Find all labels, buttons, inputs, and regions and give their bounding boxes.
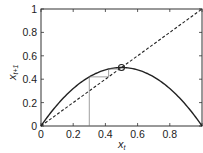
svg-text:0.8: 0.8	[162, 128, 177, 140]
svg-text:0.6: 0.6	[130, 128, 145, 140]
svg-text:0: 0	[38, 128, 44, 140]
svg-text:0.4: 0.4	[22, 73, 37, 85]
svg-text:0.8: 0.8	[22, 26, 37, 38]
logistic-curve	[41, 68, 202, 127]
svg-text:0.2: 0.2	[22, 97, 37, 109]
cobweb-path	[89, 69, 119, 126]
svg-text:1: 1	[31, 3, 37, 15]
y-tick-labels: 00.20.40.60.81	[22, 3, 37, 132]
svg-text:0: 0	[31, 120, 37, 132]
svg-text:0.4: 0.4	[98, 128, 113, 140]
svg-text:0.6: 0.6	[22, 50, 37, 62]
chart: 00.20.40.60.81 00.20.40.60.8 xt xt+1	[0, 0, 203, 153]
y-axis-label: xt+1	[6, 64, 19, 81]
x-tick-labels: 00.20.40.60.8	[38, 128, 177, 140]
svg-text:0.2: 0.2	[66, 128, 81, 140]
x-axis-label: xt	[117, 138, 127, 151]
